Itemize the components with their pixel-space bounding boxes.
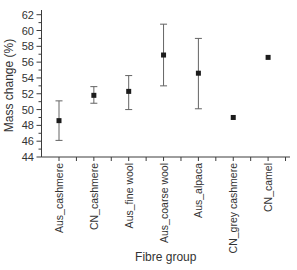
x-axis-title: Fibre group <box>135 250 197 264</box>
y-tick-label: 44 <box>22 151 34 163</box>
data-point-marker <box>231 115 236 120</box>
data-point-marker <box>57 118 62 123</box>
x-category-label: Aus_cashmere <box>53 163 65 233</box>
x-category-label: Aus_alpaca <box>192 163 204 218</box>
y-tick-label: 56 <box>22 56 34 68</box>
y-tick-label: 48 <box>22 119 34 131</box>
x-category-label: CN_grey cashmere <box>227 163 239 254</box>
y-tick-label: 60 <box>22 25 34 37</box>
data-point-marker <box>196 71 201 76</box>
y-tick-label: 54 <box>22 72 34 84</box>
data-point-marker <box>91 93 96 98</box>
figure-container: 44464850525456586062Aus_cashmereCN_cashm… <box>0 0 297 270</box>
mass-change-errorbar-chart: 44464850525456586062Aus_cashmereCN_cashm… <box>0 0 297 270</box>
y-tick-label: 46 <box>22 135 34 147</box>
x-category-label: CN_camel <box>262 163 274 212</box>
x-category-label: Aus_coarse wool <box>158 163 170 243</box>
y-tick-label: 62 <box>22 9 34 21</box>
y-tick-label: 58 <box>22 40 34 52</box>
y-tick-label: 50 <box>22 104 34 116</box>
x-category-label: CN_cashmere <box>88 163 100 230</box>
y-tick-label: 52 <box>22 88 34 100</box>
data-point-marker <box>266 55 271 60</box>
x-category-label: Aus_fine wool <box>123 163 135 228</box>
y-axis-title: Mass change (%) <box>2 39 16 132</box>
data-point-marker <box>161 53 166 58</box>
data-point-marker <box>126 89 131 94</box>
